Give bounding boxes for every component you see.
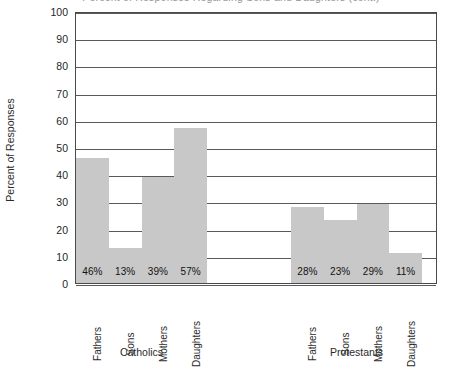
x-category-label-protestants-daughters: Daughters xyxy=(399,290,413,346)
x-category-label-catholics-daughters: Daughters xyxy=(184,290,198,346)
y-axis-title-text: Percent of Responses xyxy=(4,98,16,201)
y-tick-label-30: 30 xyxy=(38,197,68,208)
chart-title: Percent of Responses Regarding Sons and … xyxy=(0,0,462,5)
gridline-70 xyxy=(76,95,436,96)
bar-protestants-daughters[interactable]: 11% xyxy=(389,253,422,283)
bar-protestants-fathers[interactable]: 28% xyxy=(291,207,324,283)
x-category-label-text: Daughters xyxy=(191,321,202,367)
gridline-100 xyxy=(76,13,436,14)
plot-area: 46%13%39%57%28%23%29%11% xyxy=(75,12,437,284)
x-category-label-catholics-fathers: Fathers xyxy=(85,290,99,346)
gridline-80 xyxy=(76,67,436,68)
y-tick-label-0: 0 xyxy=(38,279,68,290)
bar-catholics-fathers[interactable]: 46% xyxy=(76,158,109,283)
y-tick-label-50: 50 xyxy=(38,143,68,154)
x-group-label-catholics: Catholics xyxy=(76,346,207,358)
bar-value-label: 39% xyxy=(142,267,175,277)
bar-value-label: 11% xyxy=(389,267,422,277)
gridline-40 xyxy=(76,176,436,177)
gridline-0 xyxy=(76,285,436,286)
bar-value-label: 46% xyxy=(76,267,109,277)
bar-value-label: 23% xyxy=(324,267,357,277)
gridline-60 xyxy=(76,122,436,123)
x-category-label-protestants-fathers: Fathers xyxy=(300,290,314,346)
bar-value-label: 57% xyxy=(174,267,207,277)
x-category-label-catholics-mothers: Mothers xyxy=(151,290,165,346)
y-tick-label-80: 80 xyxy=(38,61,68,72)
y-tick-label-90: 90 xyxy=(38,34,68,45)
bar-protestants-sons[interactable]: 23% xyxy=(324,220,357,283)
x-group-label-protestants: Protestants xyxy=(291,346,422,358)
y-tick-label-20: 20 xyxy=(38,225,68,236)
y-tick-label-100: 100 xyxy=(38,7,68,18)
bar-protestants-mothers[interactable]: 29% xyxy=(357,204,390,283)
gridline-50 xyxy=(76,149,436,150)
x-category-label-protestants-mothers: Mothers xyxy=(366,290,380,346)
bar-value-label: 28% xyxy=(291,267,324,277)
x-category-label-protestants-sons: Sons xyxy=(333,290,347,346)
y-axis-title: Percent of Responses xyxy=(2,80,18,220)
y-tick-label-70: 70 xyxy=(38,89,68,100)
bar-catholics-mothers[interactable]: 39% xyxy=(142,177,175,283)
x-category-label-catholics-sons: Sons xyxy=(118,290,132,346)
y-tick-label-40: 40 xyxy=(38,170,68,181)
y-tick-label-10: 10 xyxy=(38,252,68,263)
y-tick-label-60: 60 xyxy=(38,116,68,127)
bar-catholics-daughters[interactable]: 57% xyxy=(174,128,207,283)
bar-value-label: 13% xyxy=(109,267,142,277)
x-category-label-text: Daughters xyxy=(406,321,417,367)
bar-catholics-sons[interactable]: 13% xyxy=(109,248,142,283)
bar-value-label: 29% xyxy=(357,267,390,277)
gridline-90 xyxy=(76,40,436,41)
